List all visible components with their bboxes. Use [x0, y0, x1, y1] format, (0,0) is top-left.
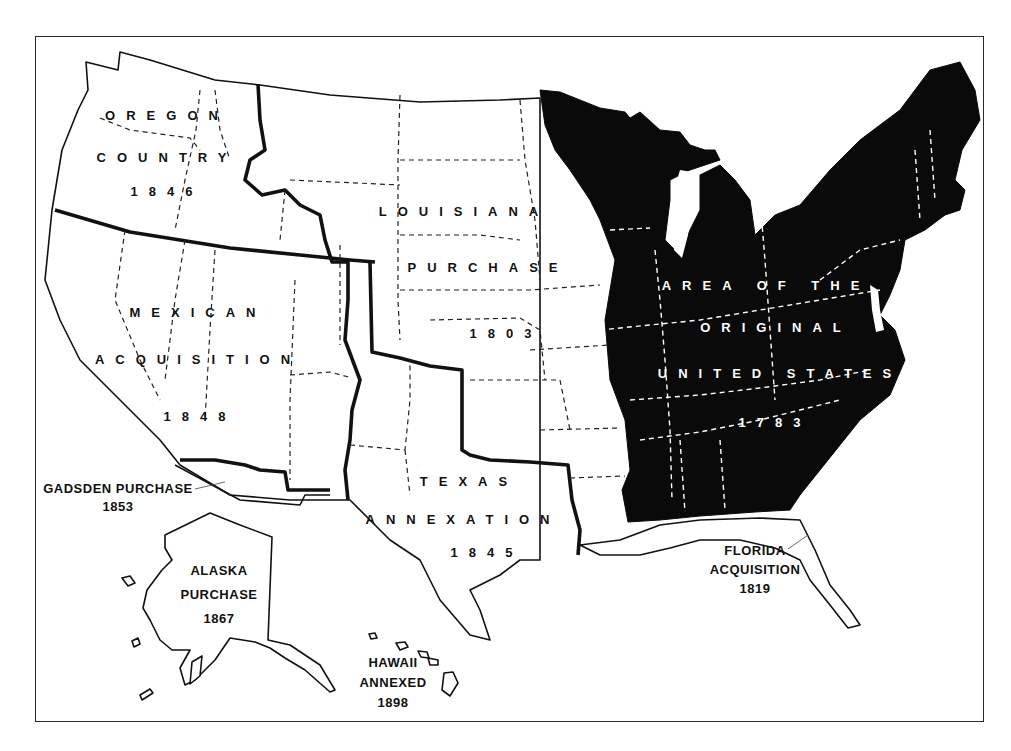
- alaska-island-2: [132, 638, 140, 647]
- label-original-name-3: UNITED STATES: [658, 366, 902, 381]
- label-hawaii-name: HAWAII: [368, 652, 417, 674]
- hawaii-island-maui: [428, 658, 438, 665]
- label-oregon-year: 1846: [131, 184, 204, 199]
- label-alaska-year: 1867: [204, 608, 235, 630]
- label-oregon-name-2: COUNTRY: [97, 150, 238, 165]
- hawaii-island-oahu: [418, 651, 429, 658]
- alaska-island-3: [140, 689, 153, 700]
- label-louisiana-name-2: PURCHASE: [408, 260, 569, 275]
- label-alaska-name: ALASKA: [190, 560, 247, 582]
- label-louisiana-name: LOUISIANA: [379, 204, 550, 219]
- label-texas-name-2: ANNEXATION: [366, 512, 561, 527]
- label-florida-year: 1819: [740, 578, 771, 600]
- label-original-name: AREA OF THE: [662, 278, 871, 293]
- label-louisiana-year: 1803: [470, 326, 543, 341]
- label-mexican-name: MEXICAN: [130, 305, 267, 320]
- label-hawaii-name-2: ANNEXED: [359, 672, 426, 694]
- label-original-year: 1783: [739, 415, 812, 430]
- label-alaska-name-2: PURCHASE: [181, 584, 258, 606]
- alaska-island-1: [122, 576, 135, 586]
- label-gadsden-year: 1853: [103, 496, 134, 518]
- label-texas-year: 1845: [451, 545, 524, 560]
- hawaii-island-niihau: [369, 633, 377, 639]
- label-original-name-2: ORIGINAL: [700, 320, 852, 335]
- label-mexican-year: 1848: [164, 409, 237, 424]
- label-oregon-name: OREGON: [105, 108, 229, 123]
- hawaii-island-big: [442, 672, 458, 696]
- label-texas-name: TEXAS: [420, 474, 518, 489]
- label-mexican-name-2: ACQUISITION: [95, 352, 301, 367]
- hawaii-island-kauai: [396, 642, 408, 650]
- label-hawaii-year: 1898: [378, 692, 409, 714]
